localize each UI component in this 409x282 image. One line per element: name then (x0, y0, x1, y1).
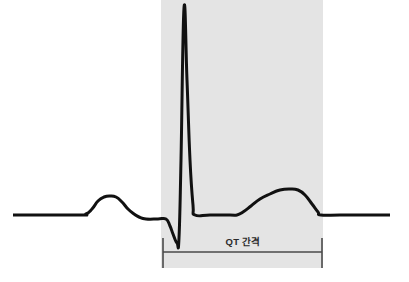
ecg-figure: QT 간격 (0, 0, 409, 282)
qt-interval-label: QT 간격 (163, 236, 323, 248)
